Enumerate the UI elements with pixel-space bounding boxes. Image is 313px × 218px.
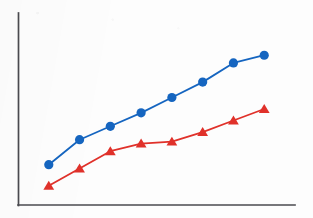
data-point (167, 93, 176, 102)
data-point (75, 135, 84, 144)
chart-figure: Line chart with two ascending series dra… (0, 0, 313, 218)
data-point (74, 164, 85, 173)
series-blue-markers (44, 51, 269, 170)
series-blue-line (49, 55, 264, 164)
data-point (106, 122, 115, 131)
series-blue (44, 51, 269, 170)
chart-axes (18, 13, 295, 206)
data-point (198, 78, 207, 87)
data-point (259, 104, 270, 113)
data-point (43, 181, 54, 190)
data-point (137, 108, 146, 117)
series-red-markers (43, 104, 269, 190)
chart-plot-area (0, 0, 313, 218)
series-red (43, 104, 269, 190)
data-point (229, 58, 238, 67)
data-point (260, 51, 269, 60)
data-point (44, 160, 53, 169)
